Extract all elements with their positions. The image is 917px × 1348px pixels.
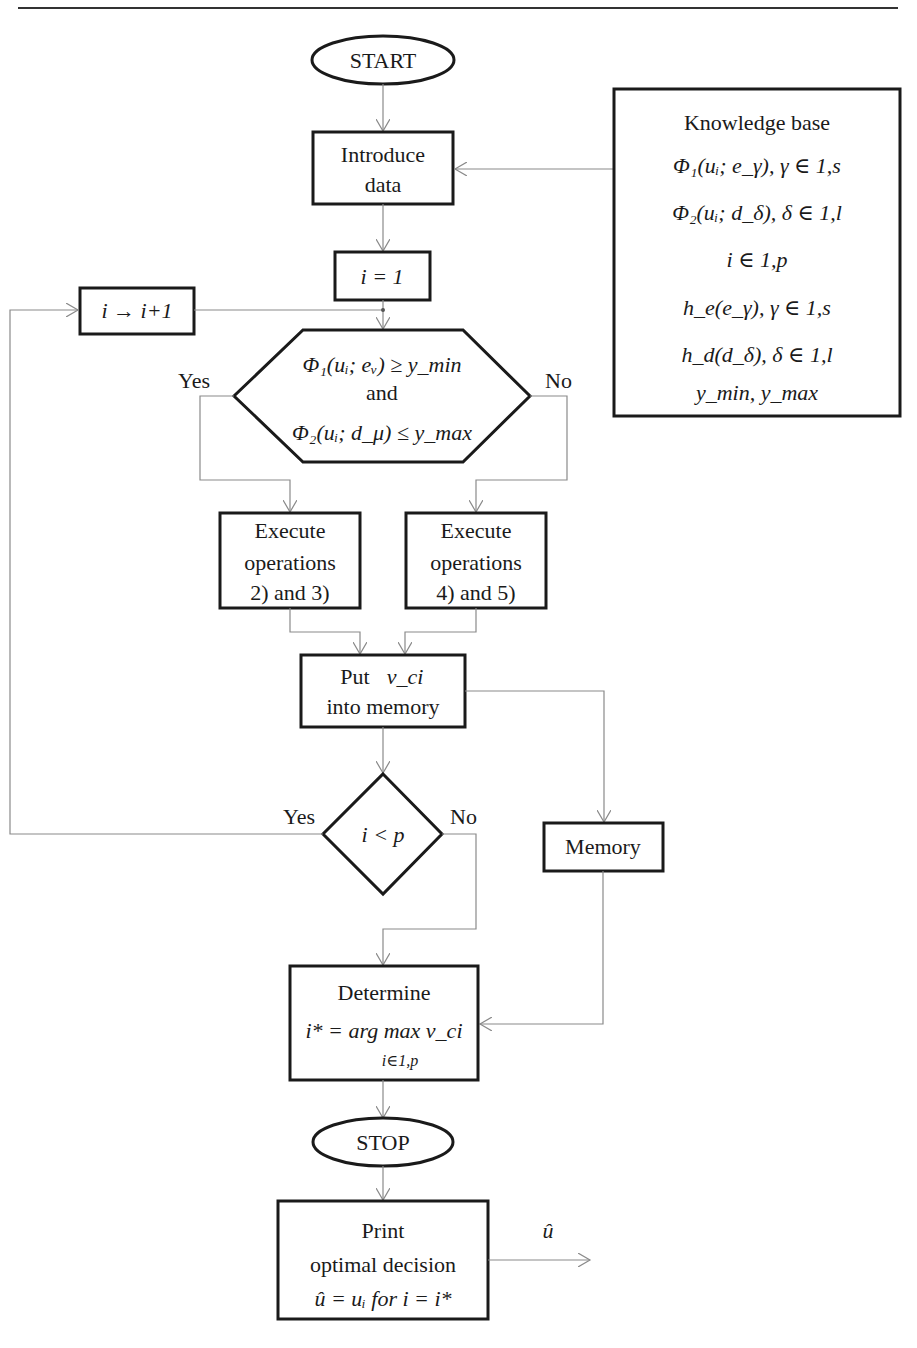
exec-no-line1: Execute [441, 518, 512, 543]
kb-item-hd: h_d(d_δ), δ ∈ 1,l [681, 342, 832, 367]
kb-item-phi1: Φ₁(uᵢ; e_γ), γ ∈ 1,s [673, 153, 841, 178]
exec-no-line2: operations [430, 550, 522, 575]
arrow-exec-no-to-put [405, 608, 476, 654]
loop-condition-diamond: i < p [323, 774, 442, 894]
init-label: i = 1 [361, 264, 404, 289]
put-into-memory-box: Put v_ci into memory [301, 655, 465, 727]
loop-yes-label: Yes [283, 804, 315, 829]
start-terminal: START [312, 36, 454, 84]
print-line3: û = uᵢ for i = i* [314, 1286, 451, 1311]
exec-no-line3: 4) and 5) [436, 580, 515, 605]
loop-condition-label: i < p [362, 822, 405, 847]
kb-item-ylimits: y_min, y_max [694, 380, 818, 405]
kb-title: Knowledge base [684, 110, 830, 135]
stop-label: STOP [356, 1130, 409, 1155]
memory-box: Memory [544, 823, 663, 871]
put-var: v_ci [387, 664, 424, 689]
condition-line1: Φ₁(uᵢ; eᵥ) ≥ y_min [302, 352, 461, 377]
increment-label: i → i+1 [101, 298, 172, 323]
kb-item-phi2: Φ₂(uᵢ; d_δ), δ ∈ 1,l [672, 200, 842, 225]
kb-item-he: h_e(e_γ), γ ∈ 1,s [683, 295, 831, 320]
exec-yes-line1: Execute [255, 518, 326, 543]
increment-box: i → i+1 [80, 288, 194, 334]
determine-box: Determine i* = arg max v_ci i∈1,p [290, 966, 478, 1080]
output-label: û [543, 1218, 554, 1243]
put-line2: into memory [326, 694, 439, 719]
execute-ops-4-5-box: Execute operations 4) and 5) [406, 513, 546, 608]
exec-yes-line3: 2) and 3) [250, 580, 329, 605]
flowchart-diagram: START Introduce data i = 1 i → i+1 Φ₁(uᵢ… [0, 0, 917, 1348]
arrow-put-to-memory [465, 691, 604, 822]
print-box: Print optimal decision û = uᵢ for i = i* [278, 1201, 488, 1319]
introduce-line1: Introduce [341, 142, 425, 167]
execute-ops-2-3-box: Execute operations 2) and 3) [220, 513, 360, 608]
condition-yes-label: Yes [178, 368, 210, 393]
arrow-exec-yes-to-put [290, 608, 360, 654]
condition-and: and [366, 380, 398, 405]
introduce-data-box: Introduce data [313, 132, 453, 204]
memory-label: Memory [565, 834, 641, 859]
init-box: i = 1 [335, 252, 430, 300]
condition-hexagon: Φ₁(uᵢ; eᵥ) ≥ y_min and Φ₂(uᵢ; d_μ) ≤ y_m… [234, 330, 530, 462]
kb-item-i-range: i ∈ 1,p [727, 247, 788, 272]
print-line2: optimal decision [310, 1252, 456, 1277]
loop-no-label: No [450, 804, 477, 829]
start-label: START [350, 48, 417, 73]
knowledge-base-box: Knowledge base Φ₁(uᵢ; e_γ), γ ∈ 1,s Φ₂(u… [614, 89, 900, 416]
print-line1: Print [362, 1218, 405, 1243]
determine-formula: i* = arg max v_ci [306, 1018, 463, 1043]
stop-terminal: STOP [313, 1118, 453, 1166]
determine-subscript: i∈1,p [382, 1052, 418, 1070]
condition-no-label: No [545, 368, 572, 393]
determine-line1: Determine [338, 980, 431, 1005]
condition-line2: Φ₂(uᵢ; d_μ) ≤ y_max [292, 420, 472, 445]
arrow-memory-to-determine [480, 871, 603, 1024]
introduce-line2: data [365, 172, 402, 197]
junction-dot [381, 308, 385, 312]
exec-yes-line2: operations [244, 550, 336, 575]
put-line1: Put [340, 664, 369, 689]
